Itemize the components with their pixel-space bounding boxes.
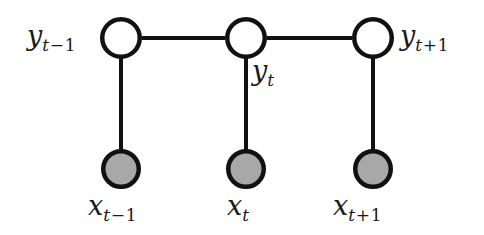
label-x-prev-subscript: t−1 [103, 205, 137, 225]
label-y-curr: yt [252, 57, 275, 84]
node-x-prev [103, 151, 139, 187]
label-y-curr-base: y [252, 55, 267, 86]
node-x-next [355, 151, 391, 187]
label-x-curr-base: x [227, 190, 242, 221]
graphical-model-figure: yt−1 yt yt+1 xt−1 xt xt+1 [0, 0, 484, 235]
node-y-prev [102, 19, 140, 57]
node-y-curr [227, 19, 265, 57]
label-y-next-base: y [400, 20, 415, 51]
label-y-prev-base: y [27, 20, 42, 51]
label-x-next-subscript: t+1 [348, 205, 382, 225]
node-y-next [354, 19, 392, 57]
label-x-next: xt+1 [333, 192, 382, 219]
label-y-next: yt+1 [400, 22, 449, 49]
label-x-curr: xt [227, 192, 250, 219]
label-y-next-subscript: t+1 [415, 35, 449, 55]
label-x-prev: xt−1 [88, 192, 137, 219]
label-y-prev-subscript: t−1 [42, 35, 76, 55]
label-y-prev: yt−1 [27, 22, 76, 49]
label-x-prev-base: x [88, 190, 103, 221]
label-y-curr-subscript: t [267, 70, 275, 90]
node-x-curr [228, 151, 264, 187]
label-x-next-base: x [333, 190, 348, 221]
label-x-curr-subscript: t [242, 205, 250, 225]
